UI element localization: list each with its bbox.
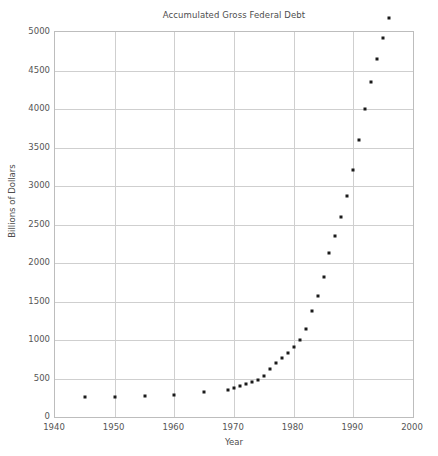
gridline-horizontal — [55, 302, 413, 303]
plot-area — [54, 31, 414, 418]
data-point — [244, 383, 247, 386]
data-point — [316, 294, 319, 297]
y-tick-label: 4500 — [4, 65, 50, 75]
gridline-horizontal — [55, 225, 413, 226]
x-tick-label: 1980 — [269, 422, 317, 432]
gridline-horizontal — [55, 186, 413, 187]
data-point — [292, 346, 295, 349]
data-point — [328, 252, 331, 255]
data-point — [286, 352, 289, 355]
x-axis-title: Year — [54, 437, 414, 447]
data-point — [143, 394, 146, 397]
data-point — [83, 395, 86, 398]
x-tick-label: 1950 — [90, 422, 138, 432]
data-point — [238, 385, 241, 388]
y-tick-label: 0 — [4, 411, 50, 421]
data-point — [382, 37, 385, 40]
data-point — [250, 380, 253, 383]
x-axis-tick-labels: 1940195019601970198019902000 — [54, 422, 414, 436]
gridline-horizontal — [55, 71, 413, 72]
gridline-horizontal — [55, 109, 413, 110]
data-point — [376, 58, 379, 61]
chart-figure: Accumulated Gross Federal Debt 050010001… — [0, 0, 438, 456]
data-point — [113, 396, 116, 399]
data-point — [256, 379, 259, 382]
y-tick-label: 1000 — [4, 334, 50, 344]
data-point — [322, 275, 325, 278]
y-tick-label: 5000 — [4, 26, 50, 36]
gridline-horizontal — [55, 263, 413, 264]
data-point — [388, 17, 391, 20]
data-point — [364, 107, 367, 110]
data-point — [352, 169, 355, 172]
y-tick-label: 1500 — [4, 296, 50, 306]
gridline-horizontal — [55, 340, 413, 341]
y-tick-label: 500 — [4, 373, 50, 383]
data-point — [310, 309, 313, 312]
gridline-horizontal — [55, 148, 413, 149]
x-tick-label: 1960 — [149, 422, 197, 432]
data-point — [262, 374, 265, 377]
gridline-horizontal — [55, 379, 413, 380]
data-point — [274, 362, 277, 365]
chart-title: Accumulated Gross Federal Debt — [54, 10, 414, 20]
data-point — [370, 80, 373, 83]
data-point — [304, 328, 307, 331]
x-tick-label: 1990 — [328, 422, 376, 432]
data-point — [227, 388, 230, 391]
data-point — [203, 391, 206, 394]
data-point — [280, 356, 283, 359]
x-tick-label: 1970 — [209, 422, 257, 432]
data-point — [298, 339, 301, 342]
data-point — [340, 215, 343, 218]
data-point — [358, 138, 361, 141]
y-tick-label: 4000 — [4, 103, 50, 113]
data-point — [173, 393, 176, 396]
data-point — [334, 235, 337, 238]
y-axis-title: Billions of Dollars — [7, 141, 17, 261]
data-point — [346, 195, 349, 198]
x-tick-label: 1940 — [30, 422, 78, 432]
x-tick-label: 2000 — [388, 422, 436, 432]
data-point — [268, 368, 271, 371]
data-point — [233, 387, 236, 390]
